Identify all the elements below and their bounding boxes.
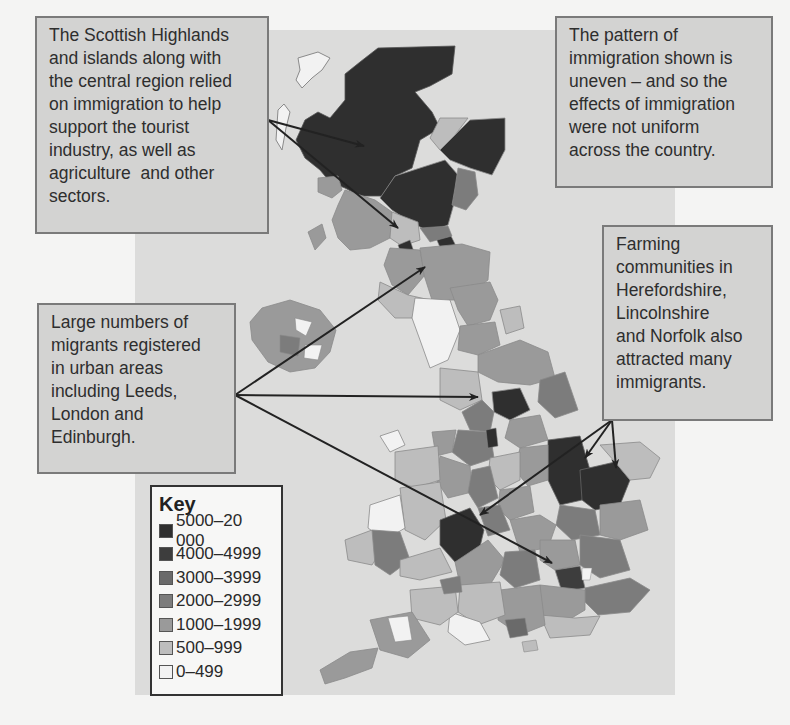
key-swatch: [159, 665, 173, 679]
region-london-white: [582, 568, 592, 580]
region-dark-spot-1: [486, 428, 498, 448]
region-herts: [540, 540, 580, 570]
callout-line: attracted many: [616, 348, 761, 371]
callout-line: and Norfolk also: [616, 325, 761, 348]
key-item: 2000–2999: [159, 590, 275, 614]
key-swatch: [159, 641, 173, 655]
region-cambridge: [556, 505, 600, 540]
region-sussex: [540, 615, 600, 638]
region-powys: [400, 482, 446, 540]
key-label: 4000–4999: [176, 544, 261, 564]
region-kent: [585, 578, 650, 615]
callout-line: sectors.: [49, 185, 257, 208]
key-item: 4000–4999: [159, 543, 275, 567]
region-island-north: [296, 52, 330, 88]
region-east-yorkshire: [538, 372, 578, 418]
callout-line: agriculture and other: [49, 162, 257, 185]
callout-line: uneven – and so the: [569, 70, 761, 93]
region-suffolk: [600, 500, 648, 540]
callout-line: including Leeds,: [51, 380, 224, 403]
callout-pattern-uneven: The pattern of immigration shown is unev…: [555, 16, 773, 188]
region-southampton: [505, 618, 528, 638]
region-leeds: [492, 388, 530, 420]
region-northumberland: [450, 282, 498, 326]
callout-line: the central region relied: [49, 70, 257, 93]
key-swatch: [159, 594, 173, 608]
region-bristol: [440, 576, 462, 594]
callout-line: Lincolnshire: [616, 302, 761, 325]
callout-line: effects of immigration: [569, 93, 761, 116]
region-cumbria: [412, 298, 460, 368]
key-label: 500–999: [176, 638, 242, 658]
key-label: 2000–2999: [176, 591, 261, 611]
region-south-yorkshire: [505, 415, 548, 448]
callout-urban-areas: Large numbers of migrants registered in …: [37, 303, 236, 474]
region-islay: [308, 224, 326, 250]
key-item: 0–499: [159, 660, 275, 684]
callout-farming-communities: Farming communities in Herefordshire, Li…: [602, 225, 773, 421]
region-teesside: [500, 306, 524, 334]
key-swatch: [159, 547, 173, 561]
callout-scottish-highlands: The Scottish Highlands and islands along…: [35, 16, 269, 234]
key-swatch: [159, 524, 173, 538]
callout-line: The Scottish Highlands: [49, 24, 257, 47]
callout-line: were not uniform: [569, 116, 761, 139]
callout-line: across the country.: [569, 139, 761, 162]
callout-line: migrants registered: [51, 334, 224, 357]
callout-line: Farming: [616, 233, 761, 256]
key-label: 3000–3999: [176, 568, 261, 588]
callout-line: industry, as well as: [49, 139, 257, 162]
callout-line: Large numbers of: [51, 311, 224, 334]
region-isle-of-wight: [522, 640, 538, 652]
callout-line: immigrants.: [616, 371, 761, 394]
map-key-legend: Key 5000–20 000 4000–4999 3000–3999 2000…: [150, 485, 283, 696]
region-north-wales: [395, 446, 440, 488]
key-swatch: [159, 571, 173, 585]
key-label: 0–499: [176, 662, 223, 682]
callout-line: Herefordshire,: [616, 279, 761, 302]
key-item: 5000–20 000: [159, 519, 275, 543]
key-swatch: [159, 618, 173, 632]
key-item: 500–999: [159, 637, 275, 661]
region-outer-hebrides: [276, 104, 290, 150]
callout-line: in urban areas: [51, 357, 224, 380]
callout-line: and islands along with: [49, 47, 257, 70]
key-item: 3000–3999: [159, 566, 275, 590]
callout-line: on immigration to help: [49, 93, 257, 116]
callout-line: The pattern of: [569, 24, 761, 47]
region-anglesey: [380, 430, 405, 452]
key-label: 1000–1999: [176, 615, 261, 635]
region-oxford: [500, 550, 540, 588]
callout-line: Edinburgh.: [51, 426, 224, 449]
callout-line: communities in: [616, 256, 761, 279]
callout-line: support the tourist: [49, 116, 257, 139]
callout-line: London and: [51, 403, 224, 426]
key-item: 1000–1999: [159, 613, 275, 637]
callout-line: immigration shown is: [569, 47, 761, 70]
region-cornwall: [320, 648, 378, 684]
